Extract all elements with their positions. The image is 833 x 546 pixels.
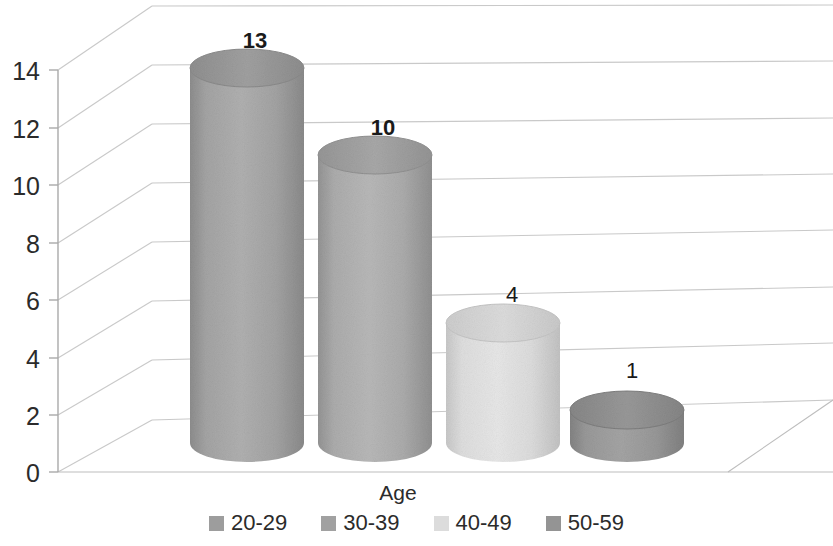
bar-cylinder-50-59[interactable] — [570, 391, 684, 462]
data-label-40-49: 4 — [506, 282, 518, 307]
bar-cylinder-40-49[interactable] — [446, 304, 560, 462]
legend-swatch-icon — [434, 516, 449, 531]
side-wall — [58, 6, 152, 472]
chart-container: 14 12 10 8 6 4 2 0 — [0, 0, 833, 546]
bar-cylinder-20-29[interactable] — [190, 49, 304, 462]
bar-cylinder-30-39[interactable] — [318, 136, 432, 462]
y-tick-label-0: 0 — [26, 459, 40, 487]
y-tick-label-14: 14 — [12, 57, 40, 85]
chart-legend: 20-29 30-39 40-49 50-59 — [0, 512, 833, 534]
y-tick-label-6: 6 — [26, 287, 40, 315]
y-tick-label-2: 2 — [26, 402, 40, 430]
data-label-20-29: 13 — [243, 28, 267, 53]
legend-swatch-icon — [321, 516, 336, 531]
y-tick-label-12: 12 — [12, 115, 40, 143]
y-tick-label-10: 10 — [12, 172, 40, 200]
data-label-50-59: 1 — [626, 358, 638, 383]
legend-swatch-icon — [209, 516, 224, 531]
legend-item-20-29[interactable]: 20-29 — [209, 512, 287, 534]
legend-item-50-59[interactable]: 50-59 — [546, 512, 624, 534]
y-tick-label-4: 4 — [26, 345, 40, 373]
legend-label: 40-49 — [456, 512, 512, 534]
legend-label: 30-39 — [343, 512, 399, 534]
legend-item-40-49[interactable]: 40-49 — [434, 512, 512, 534]
y-axis-ticks — [49, 70, 58, 472]
data-label-30-39: 10 — [371, 115, 395, 140]
legend-label: 20-29 — [231, 512, 287, 534]
plot-area-3d — [49, 5, 833, 472]
legend-label: 50-59 — [568, 512, 624, 534]
legend-swatch-icon — [546, 516, 561, 531]
x-axis-title: Age — [379, 481, 416, 504]
y-tick-label-8: 8 — [26, 230, 40, 258]
y-axis-labels: 14 12 10 8 6 4 2 0 — [12, 57, 40, 487]
floor-plane — [58, 420, 833, 472]
legend-item-30-39[interactable]: 30-39 — [321, 512, 399, 534]
chart-canvas: 14 12 10 8 6 4 2 0 — [0, 0, 833, 546]
